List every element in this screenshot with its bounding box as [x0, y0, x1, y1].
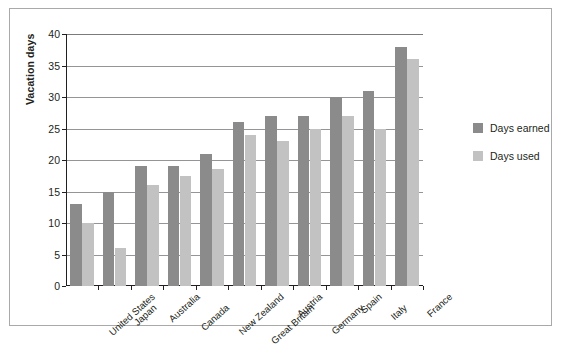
y-axis-tick-label: 0	[54, 280, 60, 292]
x-axis-tick-mark	[293, 286, 294, 290]
y-axis-tick-label: 10	[48, 217, 60, 229]
bar-days-used	[180, 176, 192, 286]
bar-days-earned	[330, 97, 342, 286]
legend-label: Days used	[490, 150, 540, 162]
y-axis-tick-label: 35	[48, 60, 60, 72]
x-axis-tick-mark	[391, 286, 392, 290]
bar-days-earned	[103, 192, 115, 287]
bar-days-earned	[168, 166, 180, 286]
bar-days-earned	[395, 47, 407, 286]
bar-days-used	[342, 116, 354, 286]
x-axis-tick-mark	[163, 286, 164, 290]
y-axis-title: Vacation days	[24, 0, 36, 105]
x-axis-tick-mark	[228, 286, 229, 290]
chart-frame: Vacation days 0510152025303540 United St…	[9, 8, 552, 326]
x-axis-label: Australia	[167, 291, 202, 324]
bar-group	[293, 34, 325, 286]
bar-days-earned	[233, 122, 245, 286]
y-axis-tick-label: 15	[48, 186, 60, 198]
y-axis-tick-mark	[62, 286, 66, 287]
bar-group	[358, 34, 390, 286]
x-axis-tick-mark	[423, 286, 424, 290]
bar-group	[66, 34, 98, 286]
y-axis-tick-label: 40	[48, 28, 60, 40]
bar-group	[163, 34, 195, 286]
bar-series-container	[66, 34, 423, 286]
y-axis-tick-label: 20	[48, 154, 60, 166]
y-axis-tick-label: 25	[48, 123, 60, 135]
legend-swatch-icon	[473, 151, 483, 161]
bar-days-used	[82, 223, 94, 286]
x-axis-tick-mark	[261, 286, 262, 290]
bar-days-earned	[200, 154, 212, 286]
bar-group	[196, 34, 228, 286]
x-axis-label: France	[424, 291, 454, 319]
bar-days-earned	[70, 204, 82, 286]
bar-group	[131, 34, 163, 286]
x-axis-tick-mark	[196, 286, 197, 290]
bar-days-earned	[135, 166, 147, 286]
x-axis-tick-mark	[326, 286, 327, 290]
bar-group	[391, 34, 423, 286]
bar-group	[261, 34, 293, 286]
x-axis-label: Italy	[389, 302, 409, 322]
bar-days-used	[115, 248, 127, 286]
legend-label: Days earned	[490, 122, 550, 134]
bar-group	[228, 34, 260, 286]
legend-item[interactable]: Days used	[473, 150, 550, 162]
x-axis-tick-mark	[358, 286, 359, 290]
bar-days-earned	[363, 91, 375, 286]
bar-group	[326, 34, 358, 286]
bar-days-earned	[298, 116, 310, 286]
bar-days-used	[407, 59, 419, 286]
bar-days-used	[245, 135, 257, 286]
bar-days-used	[147, 185, 159, 286]
plot-area: 0510152025303540	[66, 34, 423, 286]
y-axis-tick-label: 30	[48, 91, 60, 103]
y-axis-tick-label: 5	[54, 249, 60, 261]
bar-days-used	[277, 141, 289, 286]
chart-legend: Days earnedDays used	[473, 122, 550, 178]
x-axis-label: Canada	[198, 302, 230, 333]
x-axis-tick-mark	[131, 286, 132, 290]
bar-days-used	[310, 129, 322, 287]
x-axis-label: Spain	[358, 291, 384, 316]
bar-days-earned	[265, 116, 277, 286]
legend-swatch-icon	[473, 123, 483, 133]
legend-item[interactable]: Days earned	[473, 122, 550, 134]
bar-group	[98, 34, 130, 286]
x-axis-tick-mark	[98, 286, 99, 290]
bar-days-used	[212, 169, 224, 286]
bar-days-used	[375, 129, 387, 287]
